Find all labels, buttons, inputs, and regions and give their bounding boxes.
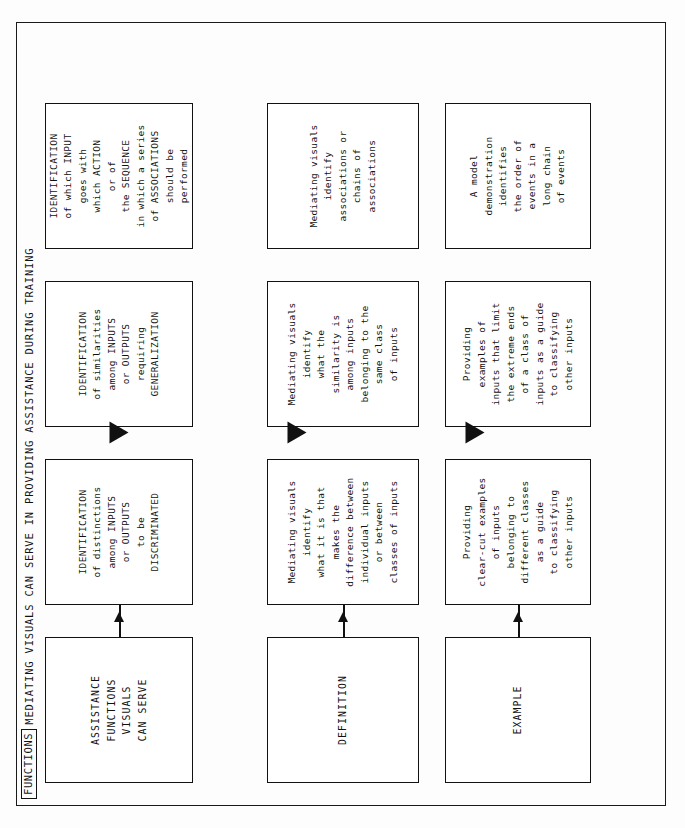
- box-label: ASSISTANCE FUNCTIONS VISUALS CAN SERVE: [88, 675, 150, 745]
- box-label: EXAMPLE: [510, 686, 526, 735]
- box-label: Mediating visuals identify what it is th…: [285, 477, 401, 586]
- box-example-header: EXAMPLE: [445, 637, 591, 783]
- box-label: A model demonstration identifies the ord…: [467, 137, 569, 216]
- box-definition-header: DEFINITION: [267, 637, 419, 783]
- diagram-page: FUNCTIONS MEDIATING VISUALS CAN SERVE IN…: [0, 0, 685, 828]
- diagram-title: FUNCTIONS MEDIATING VISUALS CAN SERVE IN…: [21, 248, 37, 799]
- rotated-diagram-canvas: FUNCTIONS MEDIATING VISUALS CAN SERVE IN…: [19, 23, 667, 805]
- box-definition-1: Mediating visuals identify what it is th…: [267, 459, 419, 605]
- box-label: DEFINITION: [335, 675, 351, 745]
- box-example-3: A model demonstration identifies the ord…: [445, 103, 591, 249]
- box-function-2: IDENTIFICATION of similarities among INP…: [45, 281, 193, 427]
- flow-triangle-3: [465, 422, 484, 444]
- box-function-3: IDENTIFICATION of which INPUT goes with …: [45, 103, 193, 249]
- box-label: Providing examples of inputs that limit …: [460, 302, 576, 405]
- arrow-into-definition-1: [338, 613, 348, 623]
- box-example-1: Providing clear-cut examples of inputs b…: [445, 459, 591, 605]
- arrow-into-function-1: [114, 613, 124, 623]
- box-label: IDENTIFICATION of distinctions among INP…: [75, 486, 162, 577]
- box-definition-3: Mediating visuals identify associations …: [267, 103, 419, 249]
- title-tag: FUNCTIONS: [21, 729, 37, 799]
- box-label: Mediating visuals identify what the simi…: [285, 302, 401, 405]
- function-column-2: IDENTIFICATION of similarities among INP…: [45, 281, 645, 427]
- box-definition-2: Mediating visuals identify what the simi…: [267, 281, 419, 427]
- function-column-1: IDENTIFICATION of distinctions among INP…: [45, 459, 645, 605]
- box-example-2: Providing examples of inputs that limit …: [445, 281, 591, 427]
- box-function-1: IDENTIFICATION of distinctions among INP…: [45, 459, 193, 605]
- box-assistance-functions: ASSISTANCE FUNCTIONS VISUALS CAN SERVE: [45, 637, 193, 783]
- diagram-grid: ASSISTANCE FUNCTIONS VISUALS CAN SERVE D…: [45, 35, 645, 791]
- box-label: Mediating visuals identify associations …: [306, 124, 379, 227]
- arrow-into-example-1: [513, 613, 523, 623]
- function-column-3: IDENTIFICATION of which INPUT goes with …: [45, 103, 645, 249]
- flow-triangle-2: [287, 422, 306, 444]
- header-column: ASSISTANCE FUNCTIONS VISUALS CAN SERVE D…: [45, 637, 645, 783]
- box-label: IDENTIFICATION of similarities among INP…: [75, 308, 162, 399]
- box-label: Providing clear-cut examples of inputs b…: [460, 477, 576, 586]
- box-label: IDENTIFICATION of which INPUT goes with …: [46, 124, 191, 227]
- title-text: MEDIATING VISUALS CAN SERVE IN PROVIDING…: [23, 248, 34, 725]
- flow-triangle-1: [109, 422, 128, 444]
